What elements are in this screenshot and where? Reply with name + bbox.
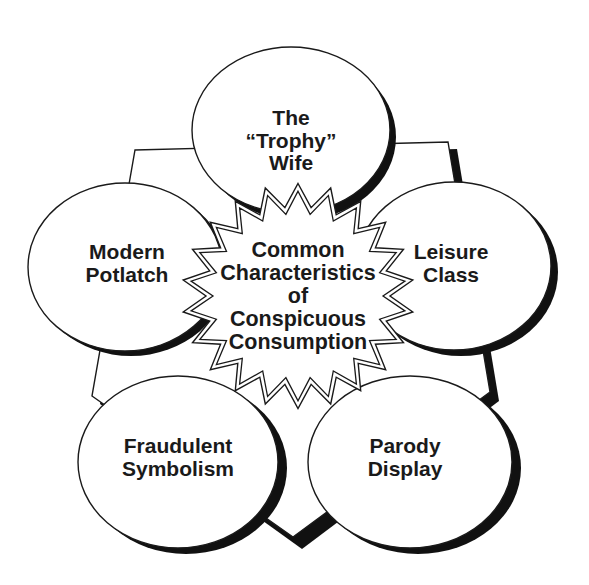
- node-label-bottom-right: Parody Display: [368, 435, 443, 480]
- node-label-line: Leisure: [414, 241, 489, 264]
- node-label-right: Leisure Class: [414, 241, 489, 286]
- node-label-top: The “Trophy” Wife: [245, 107, 336, 175]
- node-label-line: Potlatch: [86, 264, 169, 287]
- node-label-bottom-left: Fraudulent Symbolism: [122, 435, 234, 480]
- node-label-line: Parody: [368, 435, 443, 458]
- center-label-line: Common: [220, 239, 375, 262]
- node-label-line: Symbolism: [122, 458, 234, 481]
- center-label-line: Conspicuous: [220, 308, 375, 331]
- center-label-line: Consumption: [220, 331, 375, 354]
- node-label-line: The: [245, 107, 336, 130]
- node-label-line: Display: [368, 458, 443, 481]
- node-label-line: “Trophy”: [245, 130, 336, 153]
- center-label-line: of: [220, 285, 375, 308]
- center-label-line: Characteristics: [220, 262, 375, 285]
- center-label: Common Characteristics of Conspicuous Co…: [220, 239, 375, 354]
- conspicuous-consumption-diagram: Common Characteristics of Conspicuous Co…: [0, 0, 589, 585]
- node-label-line: Class: [414, 264, 489, 287]
- node-label-left: Modern Potlatch: [86, 241, 169, 286]
- node-label-line: Modern: [86, 241, 169, 264]
- node-label-line: Fraudulent: [122, 435, 234, 458]
- node-label-line: Wife: [245, 152, 336, 175]
